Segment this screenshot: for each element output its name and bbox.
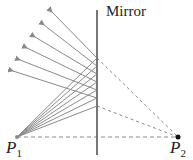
- mirror-label: Mirror: [106, 3, 146, 20]
- reflected-rays: [13, 12, 97, 106]
- incident-rays: [17, 58, 97, 137]
- mirror-reflection-diagram: [0, 0, 193, 160]
- point-p1-label: P1: [6, 138, 22, 159]
- point-p2-label: P2: [170, 138, 186, 159]
- dashed-virtual-ray-bottom: [97, 106, 178, 137]
- dashed-virtual-ray-top: [97, 58, 178, 137]
